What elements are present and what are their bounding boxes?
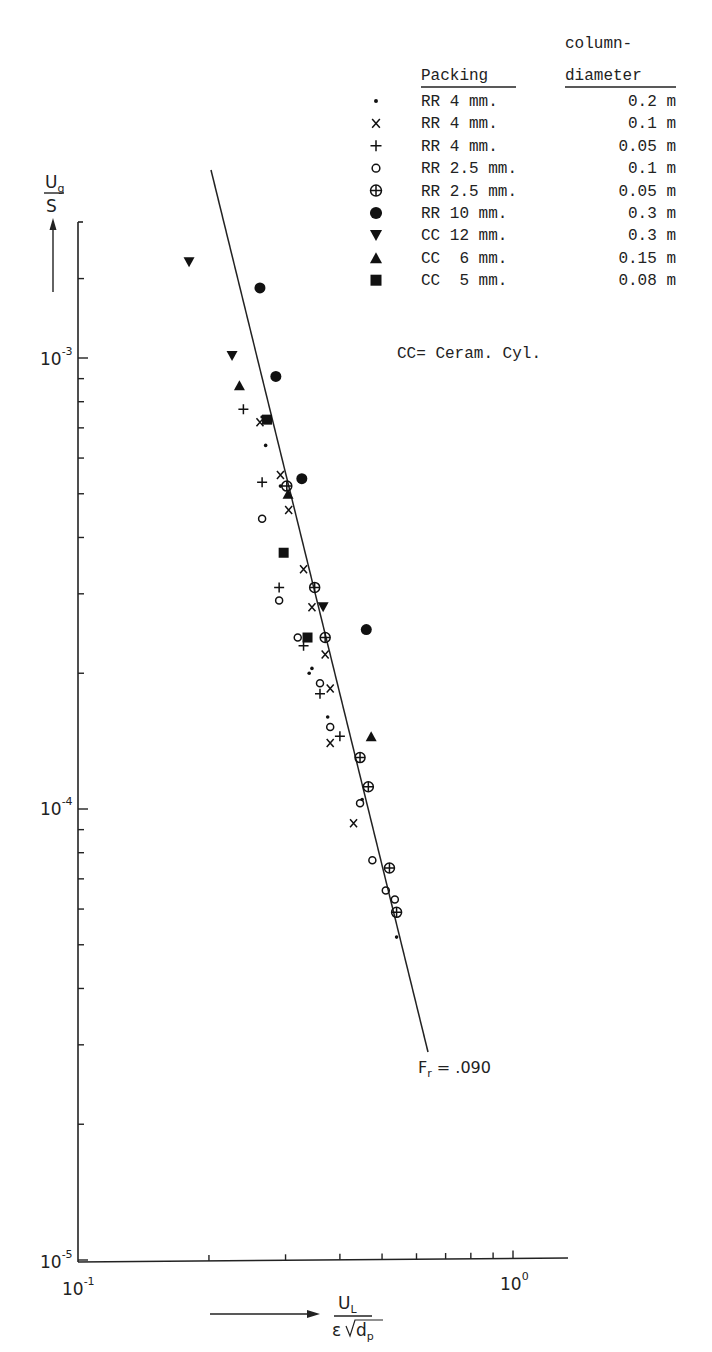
marker-circle-plus-icon bbox=[371, 185, 382, 196]
legend-row: RR 4 mm.0.1 m bbox=[372, 115, 676, 133]
legend-note: CC= Ceram. Cyl. bbox=[397, 345, 541, 363]
legend-row: RR 2.5 mm.0.05 m bbox=[371, 183, 677, 201]
legend-packing: RR 4 mm. bbox=[421, 138, 498, 156]
marker-filled-square-icon bbox=[262, 415, 272, 425]
marker-plus-icon bbox=[274, 582, 284, 592]
marker-x-icon bbox=[322, 651, 329, 659]
marker-dot-icon bbox=[310, 667, 314, 671]
legend-diameter: 0.3 m bbox=[628, 227, 676, 245]
legend-packing: RR 2.5 mm. bbox=[421, 160, 517, 178]
y-tick-label-1e-4: 10-4 bbox=[40, 795, 73, 819]
marker-x-icon bbox=[285, 506, 292, 514]
marker-plus-icon bbox=[371, 140, 382, 151]
x-tick-labels: 10-1 100 bbox=[62, 1270, 529, 1299]
marker-filled-circle-icon bbox=[370, 207, 382, 219]
legend-diameter: 0.2 m bbox=[628, 93, 676, 111]
legend-packing: RR 4 mm. bbox=[421, 115, 498, 133]
legend-row: RR 4 mm.0.2 m bbox=[374, 93, 676, 111]
marker-circle-icon bbox=[357, 800, 364, 807]
y-minor-ticks bbox=[78, 279, 88, 1260]
marker-x-icon bbox=[308, 603, 315, 611]
marker-circle-icon bbox=[276, 597, 283, 604]
legend-packing: CC 12 mm. bbox=[421, 227, 507, 245]
marker-x-icon bbox=[300, 565, 307, 573]
legend-header-diameter-1: column- bbox=[565, 35, 632, 53]
legend-row: RR 2.5 mm.0.1 m bbox=[372, 160, 676, 178]
marker-circle-plus-icon bbox=[363, 782, 373, 792]
legend-packing: CC 6 mm. bbox=[421, 250, 507, 268]
marker-filled-triangle-up-icon bbox=[234, 380, 245, 390]
fit-line-label: Fr = .090 bbox=[418, 1058, 491, 1080]
marker-filled-triangle-up-icon bbox=[366, 731, 377, 741]
marker-circle-plus-icon bbox=[392, 907, 402, 917]
marker-circle-plus-icon bbox=[320, 633, 330, 643]
marker-plus-icon bbox=[335, 731, 345, 741]
marker-plus-icon bbox=[238, 404, 248, 414]
y-tick-label-1e-3: 10-3 bbox=[40, 345, 73, 369]
legend-row: CC 6 mm.0.15 m bbox=[370, 250, 676, 268]
y-axis-label: Ug S bbox=[44, 172, 64, 292]
marker-filled-triangle-up-icon bbox=[370, 252, 382, 263]
marker-circle-icon bbox=[327, 723, 334, 730]
marker-filled-triangle-down-icon bbox=[227, 351, 238, 361]
legend-row: CC 12 mm.0.3 m bbox=[370, 227, 676, 245]
marker-filled-circle-icon bbox=[254, 282, 265, 293]
x-tick-label-1e0: 100 bbox=[500, 1270, 529, 1294]
legend-diameter: 0.1 m bbox=[628, 115, 676, 133]
marker-x-icon bbox=[372, 119, 380, 128]
axes bbox=[78, 222, 568, 1262]
x-axis-arrowhead-icon bbox=[307, 1310, 320, 1318]
marker-filled-circle-icon bbox=[296, 473, 307, 484]
marker-dot-icon bbox=[307, 671, 311, 675]
marker-filled-square-icon bbox=[303, 633, 313, 643]
legend-diameter: 0.05 m bbox=[618, 183, 676, 201]
marker-circle-icon bbox=[259, 515, 266, 522]
marker-x-icon bbox=[327, 685, 334, 693]
marker-circle-icon bbox=[316, 680, 323, 687]
svg-text:UL: UL bbox=[338, 1293, 357, 1316]
marker-plus-icon bbox=[315, 689, 325, 699]
y-axis-arrowhead-icon bbox=[50, 218, 57, 230]
y-tick-labels: 10-3 10-4 10-5 bbox=[40, 345, 73, 1272]
marker-filled-square-icon bbox=[371, 275, 382, 286]
legend-header-packing: Packing bbox=[421, 67, 488, 85]
marker-dot-icon bbox=[326, 715, 330, 719]
legend-diameter: 0.08 m bbox=[618, 272, 676, 290]
marker-filled-triangle-down-icon bbox=[184, 257, 195, 267]
svg-text:S: S bbox=[46, 196, 57, 216]
svg-text:dp: dp bbox=[356, 1320, 374, 1343]
legend-diameter: 0.1 m bbox=[628, 160, 676, 178]
marker-filled-circle-icon bbox=[361, 624, 372, 635]
legend-rows: RR 4 mm.0.2 mRR 4 mm.0.1 mRR 4 mm.0.05 m… bbox=[370, 93, 676, 290]
marker-filled-square-icon bbox=[279, 548, 289, 558]
legend-diameter: 0.05 m bbox=[618, 138, 676, 156]
marker-circle-plus-icon bbox=[384, 863, 394, 873]
marker-x-icon bbox=[327, 739, 334, 747]
marker-dot-icon bbox=[264, 444, 268, 448]
legend-row: CC 5 mm.0.08 m bbox=[371, 272, 677, 290]
marker-circle-plus-icon bbox=[282, 481, 292, 491]
svg-text:ε: ε bbox=[332, 1320, 341, 1340]
marker-circle-icon bbox=[372, 164, 380, 172]
legend-packing: RR 10 mm. bbox=[421, 205, 507, 223]
marker-circle-plus-icon bbox=[355, 753, 365, 763]
legend-diameter: 0.15 m bbox=[618, 250, 676, 268]
marker-dot-icon bbox=[395, 935, 399, 939]
chart: 10-3 10-4 10-5 10-1 100 Ug S UL ε dp Fr … bbox=[0, 0, 712, 1352]
marker-filled-triangle-down-icon bbox=[370, 230, 382, 241]
legend-row: RR 10 mm.0.3 m bbox=[370, 205, 676, 223]
legend-packing: RR 2.5 mm. bbox=[421, 183, 517, 201]
marker-x-icon bbox=[277, 471, 284, 479]
legend-packing: RR 4 mm. bbox=[421, 93, 498, 111]
marker-plus-icon bbox=[257, 477, 267, 487]
x-axis-label: UL ε dp bbox=[210, 1293, 383, 1343]
marker-circle-icon bbox=[391, 896, 398, 903]
x-axis bbox=[78, 1258, 568, 1262]
legend-packing: CC 5 mm. bbox=[421, 272, 507, 290]
x-tick-label-1e-1: 10-1 bbox=[62, 1275, 95, 1299]
legend: column- Packing diameter RR 4 mm.0.2 mRR… bbox=[370, 35, 676, 363]
marker-x-icon bbox=[350, 819, 357, 827]
legend-header-diameter-2: diameter bbox=[565, 67, 642, 85]
marker-dot-icon bbox=[374, 99, 378, 103]
svg-text:Ug: Ug bbox=[45, 172, 64, 195]
